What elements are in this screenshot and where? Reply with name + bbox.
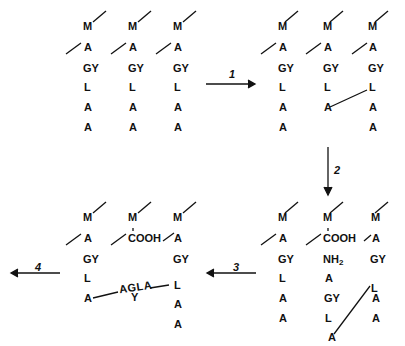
residue: GY [83,253,99,265]
residue: M [323,211,332,223]
residue: A [84,292,92,304]
arrow-3-label: 3 [233,261,239,273]
residue: A [174,318,182,330]
residue: L [129,81,136,93]
residue: M [173,211,182,223]
residue: L [325,312,332,324]
residue: M [323,20,332,32]
residue: M [128,211,137,223]
residue: M [278,211,287,223]
residue: A [372,312,380,324]
residue: A [324,101,332,113]
arrow-4-label: 4 [35,261,41,273]
residue: A [84,121,92,133]
residue: L [324,81,331,93]
cooh-group: COOH [323,232,356,244]
residue: A [84,101,92,113]
residue: A [279,312,287,324]
residue: M [278,20,287,32]
residue: GY [173,253,189,265]
residue: GY [368,62,384,74]
residue: A [174,232,182,244]
residue: A [279,41,287,53]
nh2-group: NH2 [323,253,343,269]
residue: L [84,272,91,284]
residue: A [328,331,336,343]
residue: A [369,121,377,133]
residue: A [129,121,137,133]
arrow-2-label: 2 [334,164,340,176]
residue: A [174,41,182,53]
residue: L [84,81,91,93]
residue: A [324,41,332,53]
residue: A [84,232,92,244]
residue: GY [323,62,339,74]
residue: A [279,292,287,304]
residue: GY [128,62,144,74]
residue: L [174,279,181,291]
residue: A [279,121,287,133]
residue: A [174,298,182,310]
residue: GY [324,292,340,304]
residue: A [372,292,380,304]
residue: GY [173,62,189,74]
residue: A [279,101,287,113]
residue: M [83,20,92,32]
residue: L [279,81,286,93]
residue: A [372,232,380,244]
residue: L [174,81,181,93]
residue: L [369,81,376,93]
bridge-sequence-branch: Y [131,291,138,303]
residue: A [129,41,137,53]
residue: A [325,272,333,284]
residue: GY [83,62,99,74]
residue: GY [278,62,294,74]
residue: M [368,20,377,32]
residue: GY [370,253,386,265]
cooh-group: COOH [128,232,161,244]
arrow-1-label: 1 [229,68,235,80]
residue: A [369,41,377,53]
residue: M [83,211,92,223]
residue: A [279,232,287,244]
residue: M [173,20,182,32]
residue: GY [278,253,294,265]
connector-lines [0,0,405,346]
residue: A [84,41,92,53]
residue: A [174,101,182,113]
residue: L [279,272,286,284]
diagram: M A GY L A A M A GY L A A M A GY L A A M… [0,0,405,346]
residue: A [129,101,137,113]
residue: M [371,211,380,223]
residue: M [128,20,137,32]
residue: A [174,121,182,133]
residue: A [369,101,377,113]
